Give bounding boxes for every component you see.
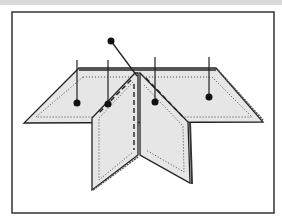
folded-paper-diagram — [0, 0, 282, 216]
